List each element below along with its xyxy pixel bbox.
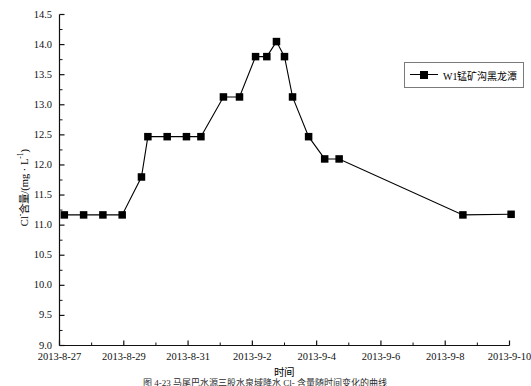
legend-label: W1锰矿沟黑龙潭 bbox=[443, 68, 517, 83]
y-tick-label: 13.0 bbox=[0, 100, 52, 111]
x-tick-label: 2013-9-6 bbox=[362, 352, 401, 363]
data-point-marker bbox=[236, 93, 244, 101]
data-point-marker bbox=[183, 133, 191, 141]
y-tick-label: 10.0 bbox=[0, 280, 52, 291]
data-point-marker bbox=[273, 38, 281, 46]
data-point-marker bbox=[335, 155, 343, 163]
data-point-marker bbox=[281, 53, 289, 61]
data-point-marker bbox=[289, 93, 297, 101]
data-point-marker bbox=[99, 211, 107, 219]
data-point-marker bbox=[197, 133, 205, 141]
y-tick-label: 14.0 bbox=[0, 39, 52, 50]
x-tick-label: 2013-9-10 bbox=[488, 352, 531, 363]
data-point-marker bbox=[252, 53, 260, 61]
data-point-marker bbox=[220, 93, 228, 101]
y-tick-label: 9.0 bbox=[0, 340, 52, 351]
x-tick-label: 2013-9-2 bbox=[233, 352, 272, 363]
legend-marker-icon bbox=[410, 70, 438, 80]
data-point-marker bbox=[80, 211, 88, 219]
chart-legend[interactable]: W1锰矿沟黑龙潭 bbox=[404, 62, 524, 88]
data-point-marker bbox=[305, 133, 313, 141]
x-tick-label: 2013-8-31 bbox=[166, 352, 210, 363]
data-point-marker bbox=[321, 155, 329, 163]
data-point-marker bbox=[459, 211, 467, 219]
y-tick-label: 13.5 bbox=[0, 69, 52, 80]
data-point-marker bbox=[507, 211, 515, 219]
legend-entry: W1锰矿沟黑龙潭 bbox=[405, 63, 523, 87]
y-tick-label: 9.5 bbox=[0, 310, 52, 321]
x-tick-label: 2013-8-27 bbox=[38, 352, 82, 363]
y-axis-title-text: Cl-含量/(mg · L-1) bbox=[19, 149, 30, 226]
y-tick-label: 14.5 bbox=[0, 9, 52, 20]
data-point-marker bbox=[118, 211, 126, 219]
data-point-marker bbox=[138, 173, 146, 181]
data-point-marker bbox=[144, 133, 152, 141]
x-tick-label: 2013-8-29 bbox=[102, 352, 146, 363]
y-axis-title: Cl-含量/(mg · L-1) bbox=[16, 118, 31, 258]
data-point-marker bbox=[263, 53, 271, 61]
figure-caption: 图 4-23 马尾巴水源三股水泉域降水 Cl- 含量随时间变化的曲线 bbox=[143, 376, 387, 386]
x-tick-label: 2013-9-8 bbox=[426, 352, 465, 363]
data-point-marker bbox=[61, 211, 69, 219]
data-point-marker bbox=[163, 133, 171, 141]
x-tick-label: 2013-9-4 bbox=[297, 352, 336, 363]
